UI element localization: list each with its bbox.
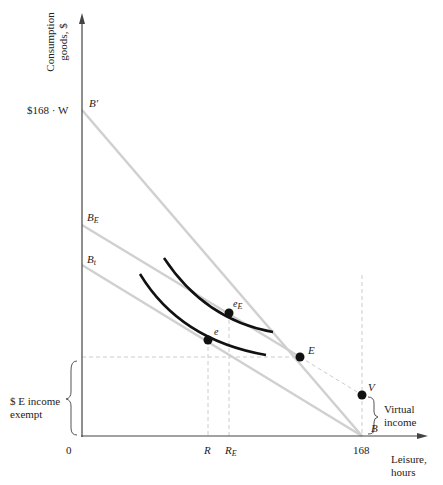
label-e: e — [214, 325, 218, 338]
label-B-E-sub: E — [94, 216, 99, 225]
annotation-exempt: $ E income exempt — [10, 395, 60, 421]
label-eE: eE — [233, 297, 242, 313]
annotation-exempt-line2: exempt — [10, 408, 60, 421]
x-tick-RE-base: R — [225, 444, 232, 456]
point-e — [204, 336, 213, 345]
x-axis-label-line2: hours — [391, 466, 427, 479]
x-tick-168: 168 — [353, 444, 370, 457]
y-axis-label-line1: Consumption — [44, 2, 57, 82]
brace-exempt-icon — [66, 361, 77, 435]
label-B-t-sub: t — [94, 258, 96, 267]
x-tick-RE-sub: E — [232, 449, 237, 458]
point-E — [296, 353, 305, 362]
y-axis-label: Consumption goods, $ — [44, 2, 70, 82]
label-B: B — [371, 422, 378, 435]
annotation-exempt-line1: $ E income — [10, 395, 60, 408]
origin-label: 0 — [66, 444, 72, 457]
x-tick-RE: RE — [225, 444, 237, 460]
x-axis-arrow-icon — [417, 433, 428, 439]
x-axis-label: Leisure, hours — [391, 453, 427, 479]
label-B-t-base: B — [87, 253, 94, 265]
label-V: V — [368, 381, 375, 394]
budget-line-B-t — [82, 265, 362, 436]
label-B-prime: B′ — [89, 97, 98, 110]
label-eE-sub: E — [237, 302, 242, 311]
indifference-curve-lower — [140, 274, 266, 355]
annotation-virtual-line2: income — [384, 416, 416, 429]
label-B-E: BE — [87, 211, 99, 227]
label-E: E — [308, 344, 315, 357]
x-tick-R: R — [204, 444, 211, 457]
label-B-E-base: B — [87, 211, 94, 223]
point-V — [358, 391, 367, 400]
y-tick-max: $168 · W — [27, 104, 68, 117]
annotation-virtual-line1: Virtual — [384, 403, 416, 416]
budget-line-B-prime — [82, 110, 362, 436]
annotation-virtual: Virtual income — [384, 403, 416, 429]
x-axis-label-line1: Leisure, — [391, 453, 427, 466]
label-B-t: Bt — [87, 253, 96, 269]
y-axis-arrow-icon — [79, 13, 85, 24]
y-axis-label-line2: goods, $ — [57, 2, 70, 82]
